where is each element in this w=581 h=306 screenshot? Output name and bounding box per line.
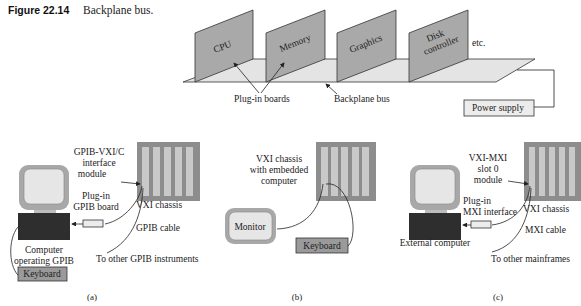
arrow-to-bus xyxy=(326,84,337,94)
slot xyxy=(352,147,359,196)
panel-b: VXI chassis with embedded computer Monit… xyxy=(225,142,376,302)
slot xyxy=(175,147,182,196)
chassis-label-b3: computer xyxy=(261,176,298,186)
slot xyxy=(559,147,565,196)
panel-a: GPIB-VXI/C interface module Plug-in GPIB… xyxy=(11,142,200,302)
cable-label-a: GPIB cable xyxy=(136,223,180,233)
panel-c: VXI-MXI slot 0 module Plug-in MXI interf… xyxy=(400,142,581,302)
interface-label-a1: GPIB-VXI/C xyxy=(74,147,125,157)
other-label-a: To other GPIB instruments xyxy=(96,254,199,264)
panel-tag-b: (b) xyxy=(292,292,303,302)
plugin-label-a1: Plug-in xyxy=(82,191,110,201)
interface-label-a3: module xyxy=(78,169,107,179)
slot xyxy=(539,147,545,196)
chassis-label-b2: with embedded xyxy=(250,165,309,175)
module-label-c1: VXI-MXI xyxy=(469,153,508,163)
backplane-bus-label: Backplane bus xyxy=(334,94,390,104)
slot xyxy=(549,147,555,196)
interface-label-a2: interface xyxy=(82,158,115,168)
plug-in-boards-label: Plug-in boards xyxy=(234,94,290,104)
cable-label-c: MXI cable xyxy=(525,225,566,235)
mxi-board-c xyxy=(471,221,491,228)
keyboard-label-a: Keyboard xyxy=(23,269,61,279)
module-label-c3: module xyxy=(474,175,503,185)
chassis-label-b1: VXI chassis xyxy=(256,154,302,164)
figure-title: Backplane bus. xyxy=(83,4,153,17)
keyboard-label-b: Keyboard xyxy=(303,241,341,251)
slot xyxy=(362,147,369,196)
plugin-label-c2: MXI interface xyxy=(463,207,517,217)
module-label-c2: slot 0 xyxy=(478,164,499,174)
computer-c xyxy=(409,213,461,240)
backplane-figure: Figure 22.14 Backplane bus. CPU Memory G… xyxy=(0,0,581,306)
computer-a xyxy=(18,213,70,240)
gpib-board-a xyxy=(83,220,103,227)
slot xyxy=(164,147,171,196)
computer-label-a2: operating GPIB xyxy=(14,256,74,266)
monitor-c-screen xyxy=(415,169,455,204)
backplane-diagram: CPU Memory Graphics Disk controller etc.… xyxy=(183,10,554,116)
plugin-label-c1: Plug-in xyxy=(463,196,491,206)
slot xyxy=(153,147,160,196)
etc-label: etc. xyxy=(472,38,485,48)
chassis-label-a: VXI chassis xyxy=(136,200,182,210)
plugin-label-a2: GPIB board xyxy=(73,202,119,212)
monitor-label-b: Monitor xyxy=(234,222,266,232)
slot xyxy=(569,147,575,196)
slot xyxy=(186,147,193,196)
panel-tag-c: (c) xyxy=(493,292,503,302)
monitor-a-screen xyxy=(24,169,64,204)
figure-label: Figure 22.14 xyxy=(8,4,69,16)
chassis-label-c: VXI chassis xyxy=(523,204,569,214)
other-label-c: To other mainframes xyxy=(491,254,570,264)
panel-tag-a: (a) xyxy=(87,292,97,302)
computer-label-c: External computer xyxy=(400,238,471,248)
slot xyxy=(331,147,338,196)
power-supply-label: Power supply xyxy=(472,103,524,113)
slot xyxy=(341,147,348,196)
computer-label-a1: Computer xyxy=(25,245,64,255)
